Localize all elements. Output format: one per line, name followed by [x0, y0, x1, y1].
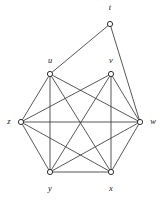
- graph-vertex-v: [108, 71, 113, 76]
- vertex-label-v: v: [109, 55, 113, 65]
- graph-edge-v-z: [21, 74, 111, 122]
- vertex-label-z: z: [6, 116, 11, 126]
- graph-vertex-x: [108, 169, 113, 174]
- graph-diagram: tuvzwyx: [0, 0, 165, 202]
- vertex-label-x: x: [108, 183, 113, 193]
- graph-vertex-y: [47, 169, 52, 174]
- graph-edge-v-w: [111, 74, 140, 122]
- labels-group: tuvzwyx: [6, 2, 156, 193]
- graph-edge-t-w: [110, 24, 140, 122]
- vertex-label-y: y: [47, 183, 52, 193]
- graph-edge-u-z: [21, 74, 50, 122]
- graph-edge-w-x: [111, 122, 140, 172]
- nodes-group: [18, 21, 142, 174]
- vertex-label-u: u: [48, 55, 52, 65]
- graph-vertex-z: [18, 119, 23, 124]
- graph-edge-t-u: [50, 24, 110, 74]
- vertex-label-t: t: [109, 2, 112, 12]
- vertex-label-w: w: [150, 116, 156, 126]
- graph-vertex-u: [47, 71, 52, 76]
- graph-vertex-t: [107, 21, 112, 26]
- graph-edge-u-w: [50, 74, 140, 122]
- graph-canvas: tuvzwyx: [0, 0, 165, 202]
- edges-group: [21, 24, 140, 172]
- graph-edge-w-y: [50, 122, 140, 172]
- graph-edge-z-y: [21, 122, 50, 172]
- graph-vertex-w: [137, 119, 142, 124]
- graph-edge-z-x: [21, 122, 111, 172]
